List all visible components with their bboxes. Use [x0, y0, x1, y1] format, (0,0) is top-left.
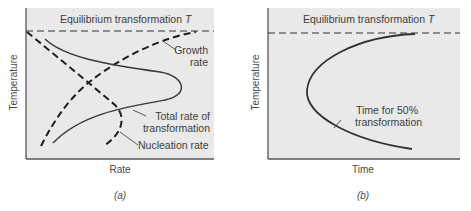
equilibrium-symbol: T	[428, 13, 434, 25]
total-rate-label: Total rate of transformation	[130, 110, 210, 134]
total-rate-label-line1: Total rate of	[130, 110, 210, 122]
panel-a-equilibrium-label: Equilibrium transformation T	[60, 13, 191, 25]
panel-a-caption: (a)	[100, 190, 140, 201]
panel-b-x-axis-label: Time	[343, 164, 383, 175]
panel-b-equilibrium-label: Equilibrium transformation T	[303, 13, 434, 25]
panel-a-x-axis-label: Rate	[100, 164, 140, 175]
equilibrium-symbol: T	[185, 13, 191, 25]
growth-rate-label-line1: Growth	[168, 44, 208, 56]
total-rate-label-line2: transformation	[130, 122, 210, 134]
nucleation-rate-label: Nucleation rate	[138, 139, 209, 151]
time-50-label: Time for 50% transformation	[355, 104, 422, 128]
time-50-label-line1: Time for 50%	[355, 104, 419, 116]
growth-rate-label-line2: rate	[168, 56, 208, 68]
panel-a-y-axis-label: Temperature	[8, 53, 19, 113]
figure: Equilibrium transformation T Growth rate…	[0, 0, 471, 211]
equilibrium-text: Equilibrium transformation	[303, 13, 428, 25]
panel-b-plot-area	[268, 8, 460, 159]
time-50-label-line2: transformation	[355, 116, 422, 128]
panel-b-y-axis-label: Temperature	[250, 53, 261, 113]
panel-b-caption: (b)	[343, 190, 383, 201]
equilibrium-text: Equilibrium transformation	[60, 13, 185, 25]
growth-rate-label: Growth rate	[168, 44, 208, 68]
